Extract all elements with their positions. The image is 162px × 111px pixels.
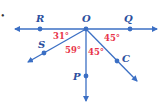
point-C bbox=[115, 59, 120, 64]
point-Q bbox=[128, 27, 133, 32]
label-P: P bbox=[72, 71, 81, 82]
label-C: C bbox=[122, 53, 130, 64]
point-R bbox=[38, 27, 43, 32]
geometry-diagram: • O R Q S P C 31° 59° 45° 45° bbox=[0, 0, 162, 111]
label-S: S bbox=[38, 39, 45, 50]
point-O bbox=[84, 27, 89, 32]
label-O: O bbox=[82, 13, 91, 24]
bullet-marker: • bbox=[1, 10, 5, 21]
angle-POC: 45° bbox=[88, 47, 104, 57]
label-Q: Q bbox=[124, 13, 133, 24]
angle-SOP: 59° bbox=[65, 45, 81, 55]
point-P bbox=[84, 74, 89, 79]
angle-ROS: 31° bbox=[53, 31, 69, 41]
angle-COQ: 45° bbox=[104, 33, 120, 43]
label-R: R bbox=[35, 13, 44, 24]
point-S bbox=[42, 51, 47, 56]
